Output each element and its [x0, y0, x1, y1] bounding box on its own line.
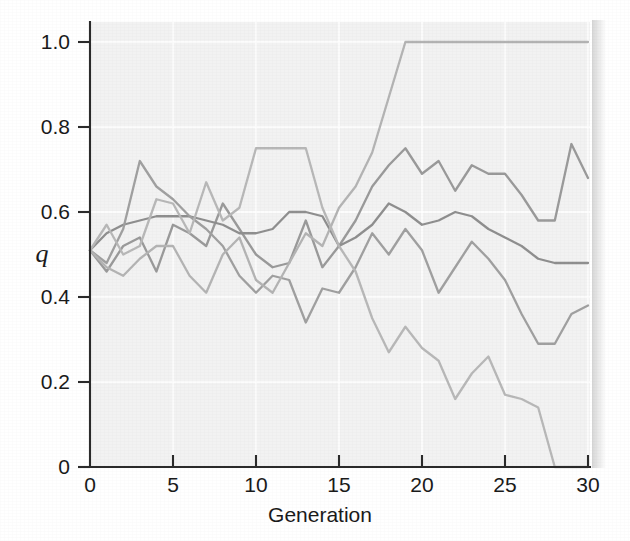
y-axis-title: q — [36, 239, 49, 268]
x-tick-label: 20 — [410, 473, 433, 496]
x-tick-label: 30 — [576, 473, 599, 496]
x-tick-label: 0 — [84, 473, 96, 496]
y-tick-label: 0.8 — [41, 115, 70, 138]
x-tick-label: 25 — [493, 473, 516, 496]
y-tick-label: 0.6 — [41, 200, 70, 223]
line-chart: 00.20.40.60.81.0 051015202530 q Generati… — [0, 0, 630, 541]
x-tick-label: 5 — [167, 473, 179, 496]
x-axis-title: Generation — [268, 503, 372, 526]
x-tick-label: 15 — [327, 473, 350, 496]
y-tick-label: 0.4 — [41, 285, 71, 308]
figure-container: 00.20.40.60.81.0 051015202530 q Generati… — [0, 0, 630, 541]
x-tick-label: 10 — [244, 473, 267, 496]
y-tick-label: 0.2 — [41, 370, 70, 393]
y-tick-label: 1.0 — [41, 30, 70, 53]
y-tick-label: 0 — [58, 455, 70, 478]
